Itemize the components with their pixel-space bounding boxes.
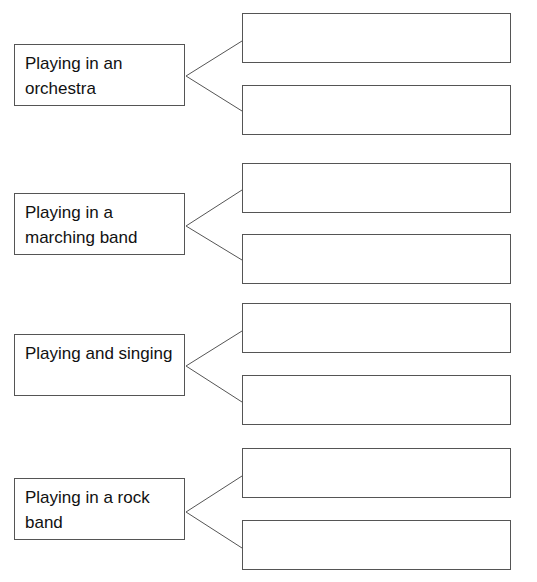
group-label: Playing in a marching band [25, 203, 137, 247]
answer-box[interactable] [242, 375, 511, 425]
group-label-box: Playing in an orchestra [14, 44, 185, 106]
answer-box[interactable] [242, 520, 511, 570]
group-label: Playing in a rock band [25, 488, 150, 532]
group-label: Playing in an orchestra [25, 54, 122, 98]
group-label: Playing and singing [25, 344, 172, 363]
group-label-box: Playing and singing [14, 334, 185, 396]
group-label-box: Playing in a marching band [14, 193, 185, 255]
answer-box[interactable] [242, 448, 511, 498]
answer-box[interactable] [242, 85, 511, 135]
answer-box[interactable] [242, 303, 511, 353]
answer-box[interactable] [242, 163, 511, 213]
answer-box[interactable] [242, 234, 511, 284]
answer-box[interactable] [242, 13, 511, 63]
group-label-box: Playing in a rock band [14, 478, 185, 540]
